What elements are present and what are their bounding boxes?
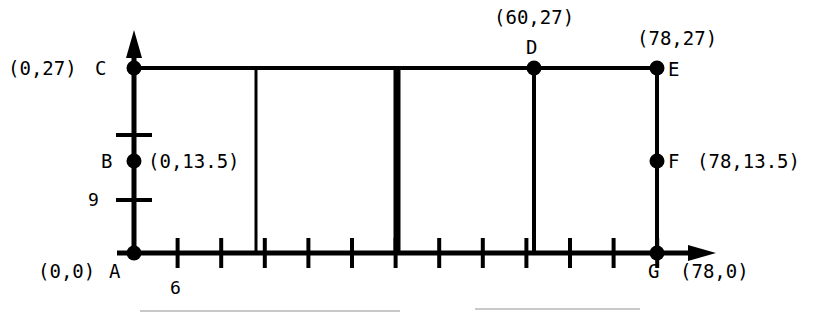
point-G-letter-label: G [648, 262, 659, 281]
scan-artifact-line-left [140, 310, 400, 312]
point-dot-E [650, 61, 665, 76]
coordinate-diagram: (0,27) C B (0,13.5) 9 (0,0) A 6 (60,27) … [0, 0, 820, 316]
interior-dividers [256, 66, 534, 253]
point-dot-D [527, 61, 542, 76]
x-axis-arrowhead [688, 245, 716, 261]
point-dot-A [127, 246, 142, 261]
x-axis-group [117, 238, 716, 268]
point-dot-C [127, 61, 142, 76]
x-axis-tick-label-6: 6 [170, 279, 181, 297]
point-B-coord-label: (0,13.5) [148, 152, 240, 171]
point-D-coord-label: (60,27) [494, 8, 574, 27]
scan-artifact-line-right [475, 308, 640, 310]
point-C-letter-label: C [95, 59, 106, 78]
y-axis-tick-label-9: 9 [88, 191, 99, 209]
y-axis-arrowhead [126, 30, 142, 58]
point-A-letter-label: A [109, 262, 120, 281]
point-dot-G [650, 246, 665, 261]
point-A-coord-label: (0,0) [38, 262, 95, 281]
point-G-coord-label: (78,0) [680, 262, 749, 281]
point-F-letter-label: F [668, 152, 679, 171]
point-dot-F [650, 154, 665, 169]
point-C-coord-label: (0,27) [8, 59, 77, 78]
point-D-letter-label: D [526, 38, 537, 57]
point-B-letter-label: B [101, 152, 112, 171]
point-dot-B [127, 154, 142, 169]
point-F-coord-label: (78,13.5) [697, 152, 800, 171]
point-E-letter-label: E [668, 60, 679, 79]
point-E-coord-label: (78,27) [637, 29, 717, 48]
